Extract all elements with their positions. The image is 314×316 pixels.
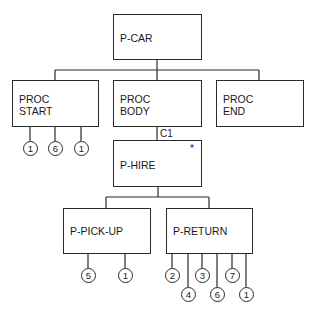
- box-proc-body: PROC BODY: [113, 80, 202, 127]
- box-proc-start: PROC START: [12, 80, 99, 127]
- box-label: P-RETURN: [173, 225, 227, 237]
- operation-circle: 6: [210, 287, 225, 302]
- operation-circle: 6: [48, 141, 63, 156]
- operation-circle: 5: [81, 268, 96, 283]
- box-p-pick-up: P-PICK-UP: [63, 208, 151, 254]
- box-label: P-PICK-UP: [70, 225, 123, 237]
- box-label: PROC BODY: [120, 93, 150, 117]
- operation-circle: 1: [74, 141, 89, 156]
- box-label: P-HIRE: [120, 159, 156, 171]
- operation-circle: 4: [181, 287, 196, 302]
- box-label: PROC END: [223, 93, 253, 117]
- box-label: P-CAR: [120, 32, 153, 44]
- iteration-marker: *: [190, 143, 194, 154]
- operation-circle: 1: [239, 287, 254, 302]
- condition-label: C1: [160, 128, 173, 139]
- box-label: PROC START: [19, 93, 52, 117]
- box-p-car: P-CAR: [113, 14, 202, 60]
- operation-circle: 3: [195, 268, 210, 283]
- box-p-hire: P-HIRE *: [113, 140, 202, 187]
- operation-circle: 2: [165, 268, 180, 283]
- box-p-return: P-RETURN: [166, 208, 253, 254]
- operation-circle: 7: [225, 268, 240, 283]
- box-proc-end: PROC END: [216, 80, 304, 127]
- operation-circle: 1: [23, 141, 38, 156]
- operation-circle: 1: [118, 268, 133, 283]
